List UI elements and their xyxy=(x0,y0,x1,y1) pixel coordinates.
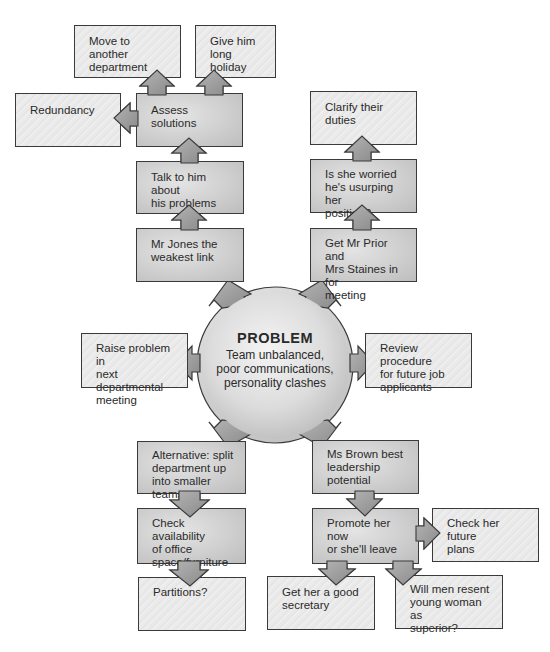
node-move-department: Move to another department xyxy=(74,25,181,78)
node-raise-problem: Raise problem in next departmental meeti… xyxy=(81,333,188,388)
node-review-procedure: Review procedure for future job applican… xyxy=(365,333,472,388)
node-alternative-split: Alternative: split department up into sm… xyxy=(137,441,246,494)
node-long-holiday: Give him long holiday xyxy=(195,25,276,78)
node-men-resent: Will men resent young woman as superior? xyxy=(395,575,503,629)
node-redundancy: Redundancy xyxy=(15,93,121,147)
node-check-availability: Check availability of office space/furni… xyxy=(137,508,246,564)
node-good-secretary: Get her a good secretary xyxy=(267,576,375,630)
node-ms-brown: Ms Brown best leadership potential xyxy=(312,440,419,494)
node-mr-jones: Mr Jones the weakest link xyxy=(136,228,244,282)
node-partitions: Partitions? xyxy=(138,577,246,631)
node-talk-to-him: Talk to him about his problems xyxy=(136,161,244,214)
node-is-she-worried: Is she worried he's usurping her positio… xyxy=(310,159,417,213)
node-assess-solutions: Assess solutions xyxy=(136,93,243,147)
problem-center: PROBLEM Team unbalanced, poor communicat… xyxy=(197,330,353,390)
problem-description: Team unbalanced, poor communications, pe… xyxy=(197,348,353,390)
problem-title: PROBLEM xyxy=(197,330,353,346)
node-promote-her: Promote her now or she'll leave xyxy=(312,508,419,564)
mind-map-diagram: Move to another department Give him long… xyxy=(0,0,550,652)
node-check-future-plans: Check her future plans xyxy=(432,508,539,562)
node-get-mr-prior: Get Mr Prior and Mrs Staines in for meet… xyxy=(310,228,417,282)
node-clarify-duties: Clarify their duties xyxy=(310,91,417,145)
